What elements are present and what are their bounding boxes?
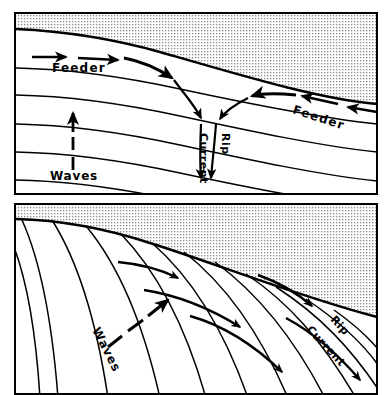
waves-direction-arrow (108, 300, 168, 347)
diagram-canvas: Feeder Feeder Current Rip Waves (0, 0, 391, 395)
label-feeder-right: Feeder (291, 103, 347, 133)
rip-head-left-limb (174, 80, 201, 118)
label-feeder-left: Feeder (52, 61, 106, 75)
label-current-top: Current (197, 133, 210, 184)
label-rip-top: Rip (219, 133, 232, 155)
panel-top: Feeder Feeder Current Rip Waves (15, 13, 377, 236)
feeder-right-curved-arrow (252, 94, 296, 96)
feeder-left-curved-arrow (124, 58, 172, 78)
feeder-left-arrows (32, 57, 118, 60)
label-waves-bottom: Waves (89, 325, 123, 374)
panel-bottom: Waves Rip Current (14, 204, 391, 395)
rip-head-right-limb (220, 98, 248, 119)
beach-land-mass (16, 14, 377, 104)
rip-current-diagram: Feeder Feeder Current Rip Waves (0, 0, 391, 395)
label-waves-top: Waves (50, 169, 98, 183)
